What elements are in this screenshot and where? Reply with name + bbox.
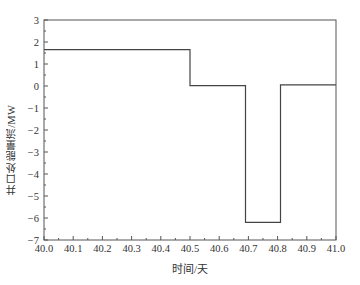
- chart-canvas: 40.040.140.240.340.440.540.640.740.840.9…: [0, 0, 360, 285]
- y-tick-label: −1: [28, 103, 39, 114]
- y-axis-label: 井口处能量流/MW: [2, 80, 20, 220]
- x-tick-label: 41.0: [327, 243, 345, 254]
- y-tick-label: 0: [34, 81, 39, 92]
- x-axis-label: 时间/天: [0, 260, 360, 276]
- x-tick-label: 40.1: [64, 243, 82, 254]
- y-axis-label-text: 井口处能量流/MW: [4, 105, 19, 195]
- x-tick-label: 40.6: [210, 243, 228, 254]
- y-tick-label: −6: [28, 213, 39, 224]
- x-tick-label: 40.4: [152, 243, 171, 254]
- y-tick-label: 1: [34, 59, 39, 70]
- y-tick-label: 3: [34, 15, 39, 26]
- y-tick-label: −2: [28, 125, 39, 136]
- y-tick-label: 2: [34, 37, 39, 48]
- energy-flow-series-line: [44, 50, 336, 223]
- y-tick-label: −4: [28, 169, 40, 180]
- axis-tick-labels: 40.040.140.240.340.440.540.640.740.840.9…: [28, 15, 345, 255]
- x-tick-label: 40.7: [239, 243, 257, 254]
- x-tick-label: 40.8: [268, 243, 286, 254]
- y-tick-label: −3: [28, 147, 39, 158]
- x-tick-label: 40.5: [181, 243, 199, 254]
- y-tick-label: −5: [28, 191, 39, 202]
- x-tick-label: 40.2: [93, 243, 111, 254]
- y-tick-label: −7: [28, 235, 39, 246]
- x-tick-label: 40.3: [122, 243, 140, 254]
- x-tick-label: 40.9: [298, 243, 316, 254]
